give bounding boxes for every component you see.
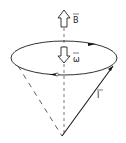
b-field-arrow-icon bbox=[58, 10, 70, 27]
b-field-label: B bbox=[73, 16, 79, 25]
omega-label: ω bbox=[73, 55, 80, 64]
cone-dashed-edge bbox=[18, 66, 62, 136]
angular-momentum-vector bbox=[62, 66, 113, 136]
omega-arrow-icon bbox=[58, 47, 70, 63]
angular-momentum-label: I bbox=[97, 91, 99, 100]
precession-diagram: B ω I bbox=[0, 0, 126, 143]
